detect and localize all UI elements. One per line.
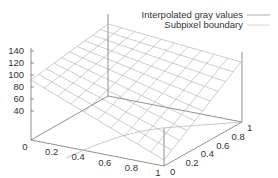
y-tick-label: 0.2: [185, 157, 198, 168]
z-axis-ticks: 140120100806040: [8, 45, 34, 116]
x-tick-label: 1: [155, 167, 160, 178]
x-tick-label: 0.2: [45, 146, 58, 157]
y-tick-label: 0: [170, 166, 175, 177]
surface-grid-line: [100, 30, 233, 72]
surface-grid-line: [93, 35, 226, 81]
z-tick-label: 40: [13, 105, 24, 116]
z-tick-label: 120: [8, 57, 24, 68]
surface-grid: [31, 24, 241, 160]
z-tick-label: 140: [8, 45, 24, 56]
y-tick-label: 0.4: [201, 148, 214, 159]
x-tick-label: 0.6: [98, 157, 111, 168]
y-tick-label: 0.6: [216, 140, 229, 151]
z-tick-label: 60: [13, 93, 24, 104]
surface-grid-line: [70, 52, 203, 111]
surface-grid-line: [164, 62, 241, 160]
y-axis-ticks: 00.20.40.60.81: [170, 122, 252, 177]
y-tick-label: 0.8: [232, 131, 245, 142]
x-tick-label: 0.8: [125, 162, 138, 173]
legend-label-subpixel-boundary: Subpixel boundary: [164, 19, 243, 30]
z-tick-label: 80: [13, 81, 24, 92]
surface-plot: 140120100806040 00.20.40.60.81 00.20.40.…: [0, 0, 278, 178]
x-tick-label: 0: [22, 141, 27, 152]
z-tick-label: 100: [8, 69, 24, 80]
y-tick-label: 1: [247, 122, 252, 133]
legend: Interpolated gray values Subpixel bounda…: [142, 9, 270, 30]
x-tick-label: 0.4: [72, 151, 85, 162]
